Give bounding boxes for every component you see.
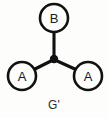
figure-caption: G': [48, 98, 60, 112]
edge-junction-to-a-left: [33, 60, 53, 70]
center-junction-vertex: [50, 55, 58, 63]
node-a-left: A: [8, 62, 36, 90]
node-a-right-label: A: [84, 69, 93, 84]
node-b: B: [40, 4, 68, 32]
edge-junction-to-a-right: [55, 60, 77, 70]
node-a-left-label: A: [18, 69, 27, 84]
figure-container: B A A G': [0, 0, 108, 118]
edge-group: [33, 32, 77, 70]
node-b-label: B: [50, 11, 59, 26]
graph-diagram: B A A G': [0, 0, 108, 118]
node-a-right: A: [74, 62, 102, 90]
